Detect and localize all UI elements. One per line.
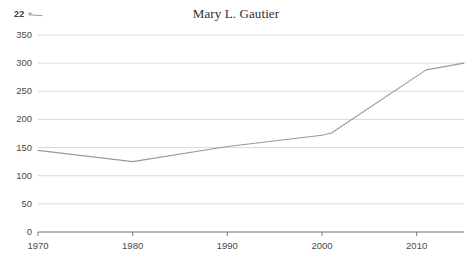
- y-axis-tick-label: 200: [2, 114, 32, 124]
- plot-area: [0, 0, 472, 260]
- y-axis-tick-label: 150: [2, 143, 32, 153]
- y-axis-tick-label: 300: [2, 58, 32, 68]
- data-line-series-0: [38, 63, 464, 162]
- y-axis-tick-label: 250: [2, 86, 32, 96]
- gridlines: [38, 35, 464, 232]
- y-axis-tick-label: 350: [2, 30, 32, 40]
- y-axis-tick-label: 0: [2, 227, 32, 237]
- x-axis-tick-label: 2000: [302, 241, 342, 251]
- x-axis-ticks: [38, 232, 417, 236]
- y-axis-tick-label: 100: [2, 171, 32, 181]
- x-axis-tick-label: 1980: [113, 241, 153, 251]
- x-axis-tick-label: 1990: [207, 241, 247, 251]
- chart-container: 22 Mary L. Gautier 050100150200250300350…: [0, 0, 472, 260]
- x-axis-tick-label: 2010: [397, 241, 437, 251]
- x-axis-tick-label: 1970: [18, 241, 58, 251]
- y-axis-tick-label: 50: [2, 199, 32, 209]
